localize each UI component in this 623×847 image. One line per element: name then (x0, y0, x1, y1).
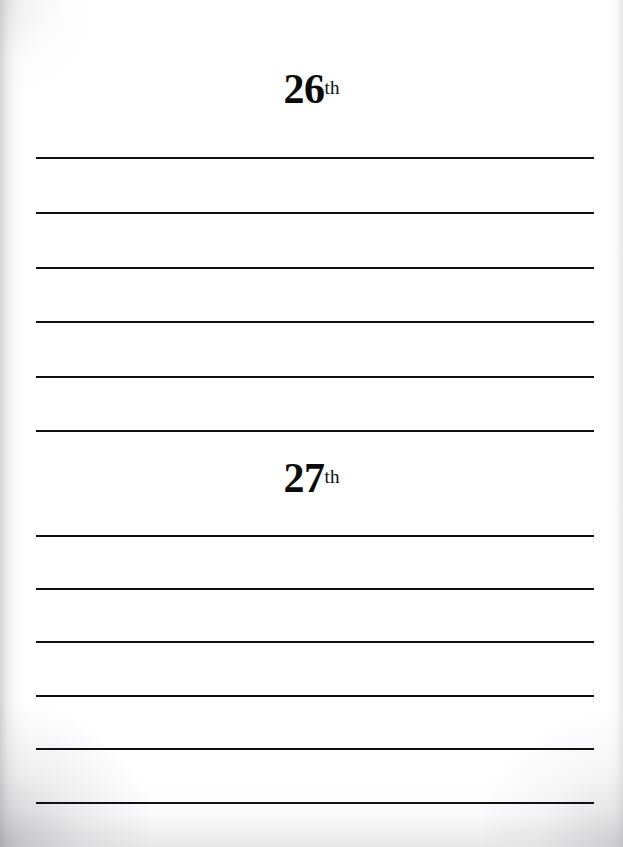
writing-line[interactable] (36, 321, 594, 323)
journal-page: 26th 27th (0, 0, 623, 847)
date-ordinal-suffix: th (325, 77, 340, 98)
date-ordinal-suffix: th (325, 466, 340, 487)
writing-line[interactable] (36, 748, 594, 750)
page-edge-shadow-right (607, 0, 623, 847)
writing-line[interactable] (36, 157, 594, 159)
writing-line[interactable] (36, 267, 594, 269)
writing-line[interactable] (36, 212, 594, 214)
page-corner-shadow-bottom-right (483, 717, 623, 847)
writing-line[interactable] (36, 802, 594, 804)
writing-line[interactable] (36, 695, 594, 697)
writing-line[interactable] (36, 376, 594, 378)
date-heading-26: 26th (0, 68, 623, 110)
page-corner-shadow-bottom-left (0, 707, 150, 847)
writing-line[interactable] (36, 535, 594, 537)
date-number: 27 (284, 455, 325, 501)
date-number: 26 (284, 66, 325, 112)
writing-line[interactable] (36, 588, 594, 590)
date-heading-27: 27th (0, 457, 623, 499)
page-edge-shadow-bottom (0, 777, 623, 847)
writing-line[interactable] (36, 430, 594, 432)
writing-line[interactable] (36, 641, 594, 643)
page-edge-shadow-left (0, 0, 26, 847)
